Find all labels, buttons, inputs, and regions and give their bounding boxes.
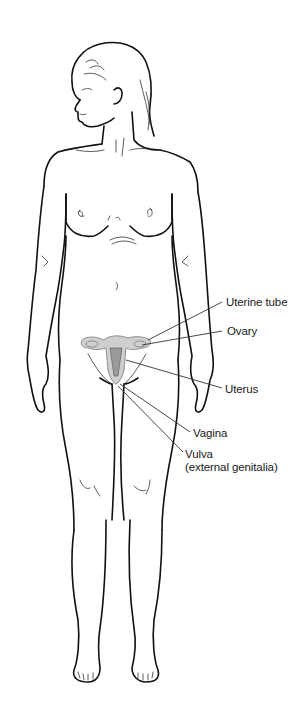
body-outline-drawing <box>0 0 305 727</box>
label-uterus: Uterus <box>225 383 258 396</box>
label-vagina: Vagina <box>193 427 227 440</box>
label-vulva: Vulva <box>185 448 213 461</box>
label-vulva-subtitle: (external genitalia) <box>185 461 278 474</box>
anatomy-diagram: Uterine tube Ovary Uterus Vagina Vulva (… <box>0 0 305 727</box>
label-ovary: Ovary <box>227 325 257 338</box>
label-uterine-tube: Uterine tube <box>226 296 287 309</box>
reproductive-organs <box>81 336 150 384</box>
